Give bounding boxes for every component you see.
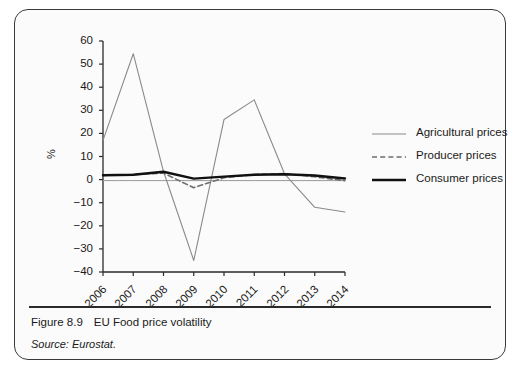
legend-swatch-icon: [371, 149, 407, 161]
series-line: [103, 54, 345, 261]
chart-axes: [99, 41, 345, 276]
y-axis-tick-label: 0: [51, 174, 93, 186]
series-line: [103, 172, 345, 179]
y-axis-tick-label: −30: [51, 243, 93, 255]
legend-label: Agricultural prices: [416, 126, 507, 138]
legend-label: Consumer prices: [416, 172, 503, 184]
y-axis-tick-label: −10: [51, 197, 93, 209]
figure-title: EU Food price volatility: [94, 316, 212, 328]
figure-number: Figure 8.9: [31, 316, 83, 328]
legend-item[interactable]: Agricultural prices: [371, 120, 507, 143]
y-axis-tick-label: 60: [51, 35, 93, 47]
legend-item[interactable]: Consumer prices: [371, 166, 507, 189]
y-axis-tick-label: 30: [51, 104, 93, 116]
y-axis-tick-label: −20: [51, 220, 93, 232]
chart-plot-area: % 6050403020100−10−20−30−40 200620072008…: [15, 10, 507, 300]
y-axis-tick-label: 50: [51, 58, 93, 70]
chart-legend: Agricultural pricesProducer pricesConsum…: [371, 120, 507, 189]
y-axis-tick-label: 20: [51, 127, 93, 139]
chart-series-group: [103, 54, 345, 261]
y-axis-tick-label: 10: [51, 151, 93, 163]
y-axis-tick-label: −40: [51, 266, 93, 278]
y-axis-tick-label: 40: [51, 81, 93, 93]
legend-label: Producer prices: [416, 149, 497, 161]
legend-swatch-icon: [371, 126, 407, 138]
figure-card: % 6050403020100−10−20−30−40 200620072008…: [14, 9, 506, 360]
figure-caption: Figure 8.9EU Food price volatility: [31, 316, 211, 328]
caption-divider: [29, 306, 491, 308]
legend-item[interactable]: Producer prices: [371, 143, 507, 166]
legend-swatch-icon: [371, 172, 407, 184]
figure-source: Source: Eurostat.: [31, 338, 116, 350]
